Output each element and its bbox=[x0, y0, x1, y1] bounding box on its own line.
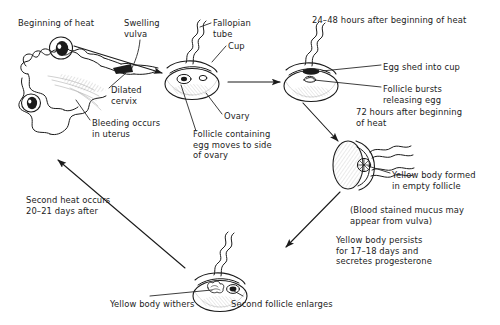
label-egg-shed-into-cup: Egg shed into cup bbox=[383, 62, 460, 73]
label-bleeding-in-uterus: Bleeding occurs in uterus bbox=[92, 118, 160, 139]
arrow-ovary3-to-ovary4 bbox=[286, 192, 340, 247]
label-second-heat-occurs: Second heat occurs 20–21 days after bbox=[26, 195, 110, 216]
label-dilated-cervix: Dilated cervix bbox=[111, 85, 142, 106]
label-beginning-of-heat: Beginning of heat bbox=[18, 18, 94, 29]
label-yellow-body-persists: Yellow body persists for 17–18 days and … bbox=[336, 235, 432, 267]
label-second-follicle-enlarges: Second follicle enlarges bbox=[231, 299, 333, 310]
label-fallopian-tube: Fallopian tube bbox=[213, 18, 251, 39]
label-follicle-containing-egg: Follicle containing egg moves to side of… bbox=[193, 129, 272, 161]
diagram-artwork bbox=[0, 0, 500, 325]
label-blood-stained-mucus: (Blood stained mucus may appear from vul… bbox=[350, 205, 464, 226]
arrow-ovary2-to-ovary3 bbox=[303, 103, 338, 141]
label-ovary: Ovary bbox=[224, 111, 250, 122]
ovary-stage-2 bbox=[284, 22, 338, 102]
label-yellow-body-withers: Yellow body withers bbox=[110, 299, 194, 310]
label-72-hours: 72 hours after beginning of heat bbox=[356, 107, 462, 128]
label-cup: Cup bbox=[228, 41, 245, 52]
diagram-canvas: Beginning of heat Swelling vulva Fallopi… bbox=[0, 0, 500, 325]
label-24-48-hours: 24–48 hours after beginning of heat bbox=[312, 15, 466, 26]
ovary-stage-1 bbox=[165, 20, 219, 100]
label-follicle-bursts: Follicle bursts releasing egg bbox=[383, 84, 442, 105]
label-yellow-body-formed: Yellow body formed in empty follicle bbox=[392, 170, 476, 191]
label-swelling-vulva: Swelling vulva bbox=[124, 18, 160, 39]
